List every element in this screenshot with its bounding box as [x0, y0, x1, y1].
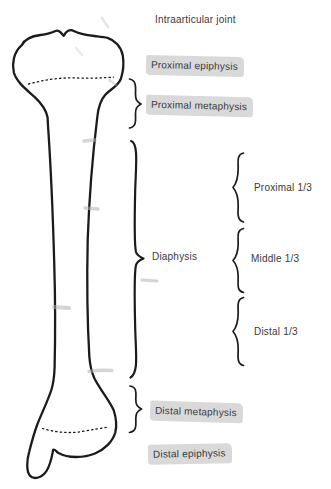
- label-proximal-metaphysis: Proximal metaphysis: [146, 95, 254, 118]
- label-middle-third: Middle 1/3: [251, 253, 299, 265]
- smudge-mark: [102, 18, 108, 27]
- label-distal-metaphysis: Distal metaphysis: [150, 401, 243, 424]
- label-distal-epiphysis: Distal epiphysis: [148, 443, 232, 464]
- smudge-mark: [54, 307, 69, 308]
- brace-distal-third: [233, 298, 244, 366]
- bone-outline: [13, 30, 123, 478]
- smudge-mark: [89, 370, 112, 371]
- brace-proximal-metaphysis: [130, 79, 142, 128]
- smudge-mark: [142, 280, 157, 281]
- diagram-canvas: Intraarticular joint Proximal epiphysis …: [0, 0, 331, 489]
- smudge-mark: [85, 208, 98, 209]
- brace-proximal-third: [233, 153, 244, 222]
- bone-outline-group: [13, 30, 123, 478]
- label-distal-third: Distal 1/3: [254, 326, 298, 338]
- brace-middle-third: [233, 229, 244, 293]
- label-intraarticular-joint: Intraarticular joint: [155, 14, 236, 26]
- label-proximal-third: Proximal 1/3: [254, 182, 312, 194]
- label-proximal-epiphysis: Proximal epiphysis: [146, 55, 244, 77]
- label-diaphysis: Diaphysis: [152, 251, 197, 263]
- smudge-mark: [84, 140, 95, 141]
- brace-distal-metaphysis: [130, 386, 142, 433]
- brace-diaphysis: [131, 141, 144, 378]
